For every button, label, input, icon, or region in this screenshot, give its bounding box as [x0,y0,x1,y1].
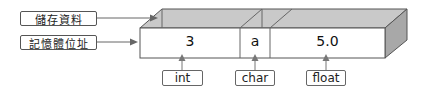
cell-value-float: 5.0 [270,33,385,49]
cell-value-char: a [240,33,270,49]
type-label-int: int [162,70,203,86]
cell-value-int: 3 [140,33,240,49]
type-label-float: float [306,70,346,86]
type-label-char: char [235,70,275,86]
memory-address-label: 記憶體位址 [20,35,97,50]
arrow-head-icon [130,39,138,46]
stored-data-label: 儲存資料 [20,11,97,26]
